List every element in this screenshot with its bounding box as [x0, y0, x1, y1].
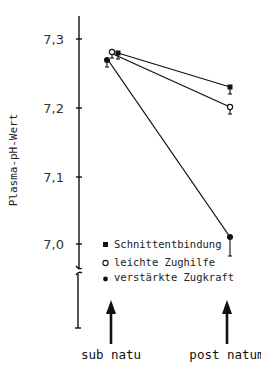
arrow-up-icon-sub-natu: [106, 300, 116, 344]
legend-label-leichte-zughilfe: leichte Zughilfe: [114, 256, 215, 268]
legend-filled-circle-icon: [103, 277, 108, 282]
legend-label-verstaerkte-zugkraft: verstärkte Zugkraft: [114, 271, 234, 283]
marker-schnittentbindung-sub: [116, 51, 121, 56]
legend-square-icon: [103, 242, 108, 247]
y-tick-label-7-1: 7,1: [43, 170, 64, 185]
marker-verstaerkte-zugkraft-sub: [104, 57, 110, 63]
series-lines: [108, 53, 230, 237]
series-leichte-zughilfe-line: [113, 54, 230, 107]
x-label-post-natum: post natum: [189, 347, 261, 362]
y-tick-label-7-2: 7,2: [43, 101, 64, 116]
y-axis-title: Plasma-pH-Wert: [7, 114, 20, 207]
marker-leichte-zughilfe-post: [227, 104, 232, 109]
legend: Schnittentbindung leichte Zughilfe verst…: [103, 238, 234, 283]
marker-schnittentbindung-post: [228, 85, 233, 90]
marker-verstaerkte-zugkraft-post: [227, 234, 233, 240]
y-tick-label-7-0: 7,0: [43, 237, 64, 252]
y-tick-label-7-3: 7,3: [43, 32, 64, 47]
y-axis: [75, 16, 82, 328]
x-label-sub-natu: sub natu: [81, 347, 141, 362]
arrow-up-icon-post-natum: [222, 300, 232, 344]
ph-line-chart: 7,3 7,2 7,1 7,0 Plasma-pH-Wert Schnitten…: [0, 0, 261, 368]
legend-label-schnittentbindung: Schnittentbindung: [114, 238, 221, 250]
marker-leichte-zughilfe-sub: [109, 49, 114, 54]
legend-open-circle-icon: [103, 260, 108, 265]
series-verstaerkte-zugkraft-line: [108, 60, 230, 237]
